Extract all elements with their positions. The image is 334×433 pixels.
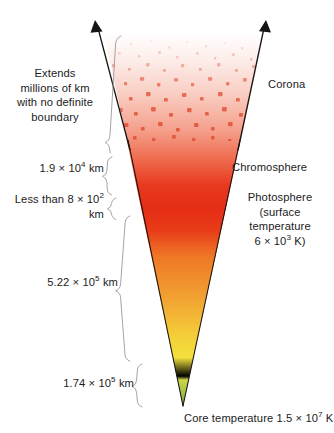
corona-layer-label: Corona <box>268 77 332 92</box>
photosphere-thickness-mantissa: Less than 8 × 10 <box>15 193 100 205</box>
photosphere-thickness-exponent: 2 <box>99 191 104 200</box>
brace-photosphere <box>107 198 116 220</box>
photosphere-temp-mantissa: 6 × 10 <box>254 235 286 247</box>
chromosphere-thickness-label: 1.9 × 104 km <box>8 161 104 176</box>
core-temp-prefix: Core temperature 1.5 × 10 <box>184 412 318 424</box>
core-thickness-mantissa: 1.74 × 10 <box>63 377 111 389</box>
interior-thickness-unit: km <box>100 276 118 288</box>
photosphere-thickness-unit: km <box>89 208 104 220</box>
interior-thickness-label: 5.22 × 105 km <box>22 275 118 290</box>
photosphere-layer-label: Photosphere(surfacetemperature6 × 103 K) <box>228 190 332 248</box>
core-temp-unit: K <box>323 412 334 424</box>
chromosphere-thickness-unit: km <box>86 162 104 174</box>
core-temperature-label: Core temperature 1.5 × 107 K <box>184 411 334 426</box>
photosphere-thickness-label: Less than 8 × 102 km <box>4 192 104 221</box>
corona-extent-label: Extends millions of km with no definite … <box>6 66 104 124</box>
interior-thickness-mantissa: 5.22 × 10 <box>47 276 95 288</box>
brace-chromosphere <box>103 157 112 195</box>
chromosphere-thickness-mantissa: 1.9 × 10 <box>40 162 82 174</box>
sun-structure-diagram: Extends millions of km with no definite … <box>0 0 334 433</box>
photosphere-line3: temperature <box>249 220 310 232</box>
photosphere-line2: (surface <box>259 206 300 218</box>
core-thickness-label: 1.74 × 105 km <box>38 376 134 391</box>
photosphere-temp-unit: K) <box>291 235 306 247</box>
core-thickness-unit: km <box>116 377 134 389</box>
photosphere-line1: Photosphere <box>248 191 313 203</box>
chromosphere-layer-label: Chromosphere <box>232 160 332 175</box>
